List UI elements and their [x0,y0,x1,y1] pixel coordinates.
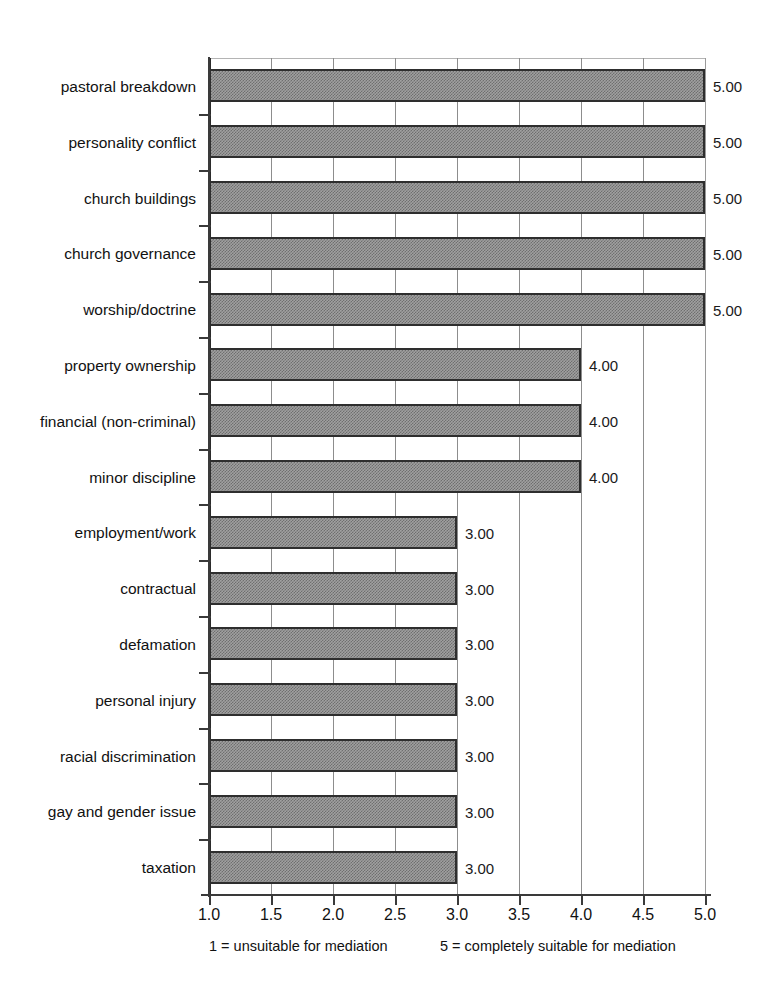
value-axis-tick [705,896,707,905]
bar-value-label: 5.00 [713,302,742,317]
bar[interactable] [209,69,705,102]
bar[interactable] [209,851,457,884]
bar[interactable] [209,348,581,381]
gridline [705,58,706,895]
value-axis-tick-label: 4.0 [570,907,592,923]
category-axis-label: taxation [0,858,196,877]
category-axis-label: property ownership [0,355,196,374]
bar-chart: pastoral breakdownpersonality conflictch… [0,0,776,1008]
value-axis-tick [333,896,335,905]
bar-row: 3.00 [209,516,705,549]
value-axis-tick [457,896,459,905]
category-axis-label: pastoral breakdown [0,76,196,95]
bar-value-label: 5.00 [713,78,742,93]
bar-row: 4.00 [209,348,705,381]
category-axis-line [208,57,210,897]
category-axis-tick [199,728,211,730]
plot-area: 5.005.005.005.005.004.004.004.003.003.00… [209,58,705,895]
bar-value-label: 4.00 [589,413,618,428]
bar[interactable] [209,293,705,326]
bar-value-label: 4.00 [589,357,618,372]
value-axis-tick-label: 2.0 [322,907,344,923]
bar-row: 5.00 [209,293,705,326]
bar[interactable] [209,572,457,605]
caption-left-text: 1 = unsuitable for mediation [209,939,388,954]
category-axis-label: financial (non-criminal) [0,411,196,430]
category-axis-label: contractual [0,579,196,598]
value-axis-tick-label: 3.5 [508,907,530,923]
value-axis-tick-label: 2.5 [384,907,406,923]
bar-value-label: 5.00 [713,134,742,149]
bar-row: 5.00 [209,181,705,214]
bar-row: 4.00 [209,460,705,493]
bar[interactable] [209,627,457,660]
category-axis-tick [199,337,211,339]
value-axis-tick-label: 5.0 [694,907,716,923]
bar-row: 3.00 [209,795,705,828]
bar-row: 3.00 [209,739,705,772]
bar[interactable] [209,125,705,158]
bar[interactable] [209,516,457,549]
value-axis-tick [271,896,273,905]
bar-value-label: 3.00 [465,860,494,875]
category-axis-label: church governance [0,244,196,263]
category-axis-tick [199,114,211,116]
bar-value-label: 3.00 [465,748,494,763]
bar[interactable] [209,404,581,437]
bar[interactable] [209,683,457,716]
caption-right-text: 5 = completely suitable for mediation [440,939,676,954]
bar-row: 5.00 [209,237,705,270]
bar-row: 5.00 [209,69,705,102]
value-axis-tick [519,896,521,905]
bar[interactable] [209,181,705,214]
bar-value-label: 5.00 [713,190,742,205]
category-axis-tick [199,504,211,506]
category-axis-tick [199,170,211,172]
category-axis-label: worship/doctrine [0,300,196,319]
bar-row: 3.00 [209,572,705,605]
category-axis-label: church buildings [0,188,196,207]
category-axis-label: personal injury [0,690,196,709]
bar[interactable] [209,739,457,772]
bar-value-label: 5.00 [713,246,742,261]
value-axis-tick [643,896,645,905]
bar-value-label: 3.00 [465,692,494,707]
bar-row: 3.00 [209,851,705,884]
bar[interactable] [209,460,581,493]
value-axis-tick [581,896,583,905]
bar-value-label: 4.00 [589,469,618,484]
value-axis-tick-label: 4.5 [632,907,654,923]
category-axis-label: personality conflict [0,132,196,151]
bar-row: 3.00 [209,627,705,660]
bar-value-label: 3.00 [465,636,494,651]
category-axis-label: defamation [0,634,196,653]
category-axis-label: racial discrimination [0,746,196,765]
bar-row: 5.00 [209,125,705,158]
bar-value-label: 3.00 [465,804,494,819]
bar-value-label: 3.00 [465,525,494,540]
bar-row: 4.00 [209,404,705,437]
category-axis-labels: pastoral breakdownpersonality conflictch… [0,0,196,1008]
value-axis-tick-label: 1.0 [198,907,220,923]
value-axis-tick [395,896,397,905]
value-axis-tick [209,896,211,905]
category-axis-tick [199,281,211,283]
value-axis-tick-label: 3.0 [446,907,468,923]
category-axis-tick [199,783,211,785]
value-axis-line [201,894,711,896]
category-axis-tick [199,839,211,841]
bar[interactable] [209,237,705,270]
category-axis-tick [199,616,211,618]
category-axis-label: minor discipline [0,467,196,486]
category-axis-tick [199,225,211,227]
bar[interactable] [209,795,457,828]
category-axis-tick [199,672,211,674]
category-axis-label: gay and gender issue [0,802,196,821]
category-axis-tick [199,449,211,451]
category-axis-tick [199,393,211,395]
bar-value-label: 3.00 [465,581,494,596]
value-axis-tick-label: 1.5 [260,907,282,923]
category-axis-tick [199,560,211,562]
category-axis-label: employment/work [0,523,196,542]
bar-row: 3.00 [209,683,705,716]
